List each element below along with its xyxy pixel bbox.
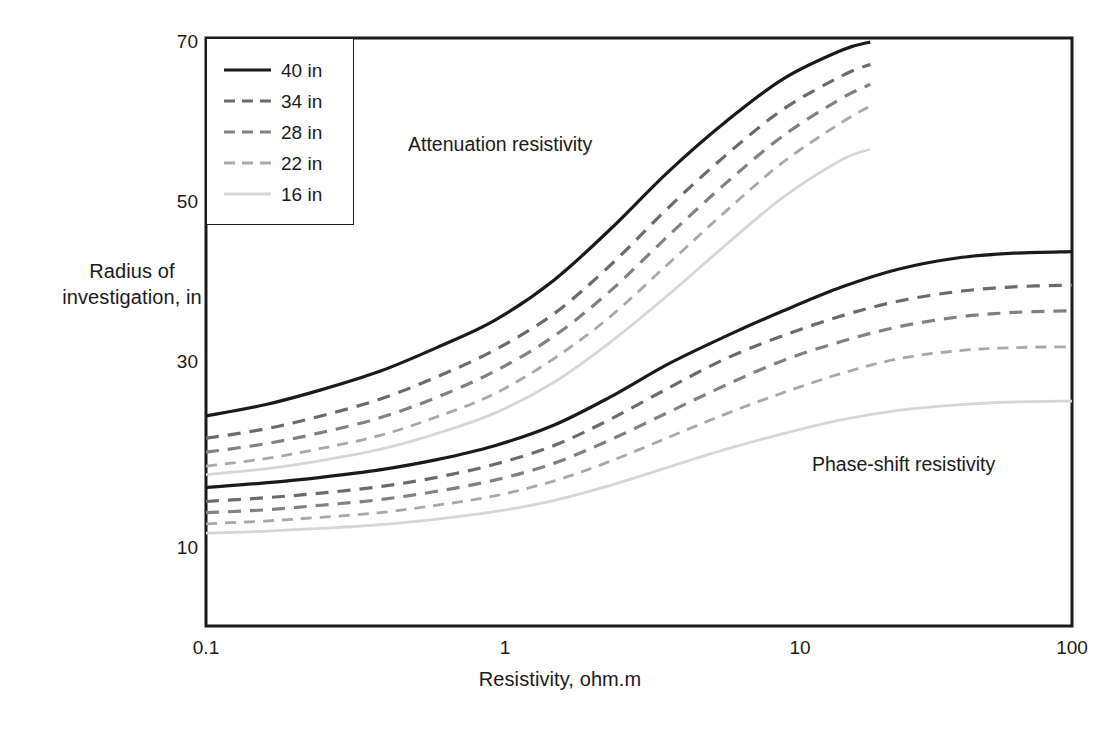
y-axis-title-line1: Radius of: [89, 260, 174, 282]
legend-label-16in: 16 in: [281, 184, 322, 206]
y-tick-30: 30: [152, 351, 198, 373]
y-tick-50: 50: [152, 191, 198, 213]
y-axis-title-line2: investigation, in: [62, 286, 202, 308]
legend-label-40in: 40 in: [281, 60, 322, 82]
x-tick-1: 1: [470, 637, 540, 659]
y-tick-70: 70: [152, 31, 198, 53]
y-axis-title: Radius of investigation, in: [52, 258, 212, 311]
annotation-attenuation-resistivity: Attenuation resistivity: [408, 133, 592, 156]
legend-label-22in: 22 in: [281, 153, 322, 175]
annotation-phase-shift-resistivity: Phase-shift resistivity: [812, 453, 995, 476]
legend-label-34in: 34 in: [281, 91, 322, 113]
x-tick-10: 10: [765, 637, 835, 659]
y-tick-10: 10: [152, 537, 198, 559]
legend: 40 in 34 in 28 in 22 in 16 in: [206, 38, 354, 225]
legend-label-28in: 28 in: [281, 122, 322, 144]
x-axis-title: Resistivity, ohm.m: [0, 668, 1120, 691]
chart-figure: 40 in 34 in 28 in 22 in 16 in 70 50 30 1…: [0, 0, 1120, 740]
x-tick-0.1: 0.1: [171, 637, 241, 659]
series-line-22-in-phase-shift: [206, 347, 1072, 524]
x-tick-100: 100: [1037, 637, 1107, 659]
